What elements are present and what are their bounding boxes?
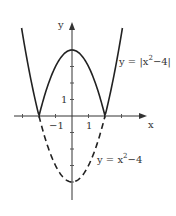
x-axis-arrow-icon — [139, 113, 147, 119]
y-axis-label: y — [58, 20, 64, 30]
abs-label-prefix: y = |x — [119, 56, 148, 67]
x-axis-label: x — [148, 120, 154, 130]
y-axis-arrow-icon — [69, 22, 75, 30]
abs-label-suffix: −4| — [153, 56, 171, 67]
x-tick-label-neg1: −1 — [49, 121, 64, 131]
parabola-curve-label: y = x2−4 — [97, 153, 142, 165]
abs-curve-label: y = |x2−4| — [119, 55, 171, 67]
parabola-label-suffix: −4 — [128, 154, 143, 165]
parabola-label-prefix: y = x — [97, 154, 123, 165]
y-axis — [69, 22, 75, 200]
graph-canvas — [0, 0, 176, 216]
y-tick-label-1: 1 — [61, 95, 67, 105]
x-tick-label-1: 1 — [86, 121, 92, 131]
x-axis — [14, 113, 147, 119]
